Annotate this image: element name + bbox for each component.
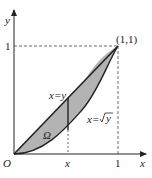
line-label: x=y (48, 89, 66, 101)
x-axis-label: x (139, 157, 145, 169)
curve-label: x= (86, 113, 99, 125)
x-tick-var: x (64, 157, 70, 169)
x-tick-one: 1 (115, 157, 121, 169)
region-label: Ω (43, 129, 51, 141)
diagram: y x O 1 1 x (1,1) x=y x= y Ω (0, 0, 152, 178)
y-axis-label: y (4, 14, 10, 26)
curve-label-sqrt-arg: y (105, 112, 111, 124)
point-label: (1,1) (116, 33, 137, 46)
origin-label: O (3, 157, 11, 169)
y-tick-one: 1 (5, 40, 11, 52)
